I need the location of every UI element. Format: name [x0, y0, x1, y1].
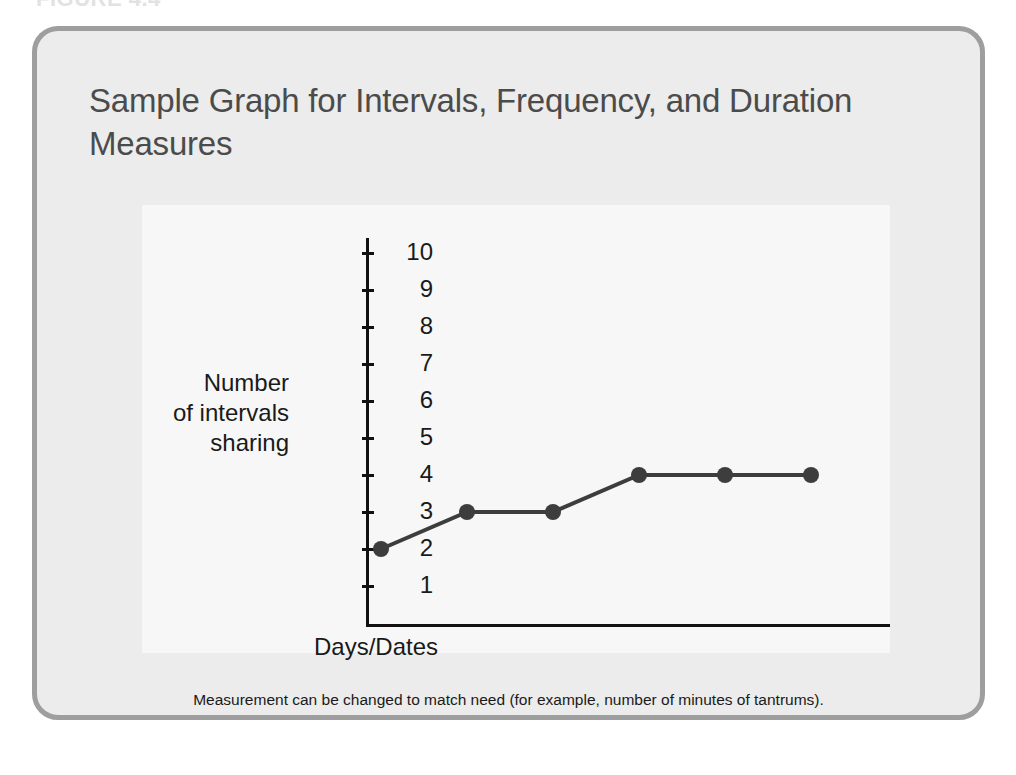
y-tick-label-group: 10 9 8 7 6 5 4 3 2 1	[393, 205, 433, 653]
y-tick-label: 1	[399, 571, 433, 599]
y-tick-label: 7	[399, 349, 433, 377]
data-point	[717, 467, 733, 483]
data-point	[803, 467, 819, 483]
y-tick-label: 9	[399, 275, 433, 303]
x-axis-title: Days/Dates	[314, 633, 438, 661]
y-tick-label: 3	[399, 497, 433, 525]
data-line	[381, 475, 811, 549]
figure-title: Sample Graph for Intervals, Frequency, a…	[89, 79, 859, 165]
figure-running-head: FIGURE 4.4	[36, 0, 161, 12]
y-axis-title-line: Number	[147, 368, 289, 398]
data-point	[545, 504, 561, 520]
y-tick-label: 6	[399, 386, 433, 414]
data-point	[459, 504, 475, 520]
y-tick-label: 2	[399, 534, 433, 562]
y-tick-label: 10	[399, 238, 433, 266]
y-axis-title-line: of intervals	[147, 398, 289, 428]
figure-box: Sample Graph for Intervals, Frequency, a…	[32, 26, 985, 720]
data-point	[631, 467, 647, 483]
data-point	[373, 541, 389, 557]
y-axis-title-line: sharing	[147, 428, 289, 458]
y-axis-title: Number of intervals sharing	[147, 368, 289, 458]
y-tick-label: 4	[399, 460, 433, 488]
y-tick-label: 8	[399, 312, 433, 340]
figure-caption: Measurement can be changed to match need…	[37, 691, 980, 709]
data-point-markers	[373, 467, 819, 557]
y-tick-label: 5	[399, 423, 433, 451]
